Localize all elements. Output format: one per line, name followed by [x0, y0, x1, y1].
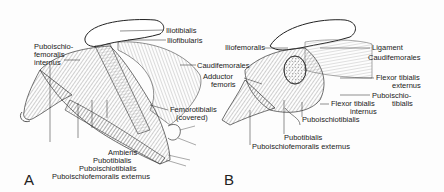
label-femorotibialis-line2: (covered) [176, 114, 208, 122]
panel-label-b: B [224, 171, 234, 188]
label-ligament: Ligament [372, 44, 403, 52]
label-caudifemorales-a: Caudifemorales [197, 62, 250, 70]
label-puboischiotibialis-top-line2: tibialis [392, 100, 413, 108]
panel-label-a: A [24, 171, 34, 188]
label-pubotibialis-b: Pubotibialis [284, 134, 322, 142]
label-caudifemorales-b: Caudifemorales [368, 54, 421, 62]
label-iliotibialis: Iliotibialis [166, 27, 196, 35]
label-flexor-tibialis-externus-line2: externus [392, 82, 421, 90]
label-iliofibularis: Iliofibularis [167, 37, 202, 45]
label-iliofemoralis: Iliofemoralis [225, 44, 265, 52]
label-puboischiotibialis-b: Puboischiotibialis [302, 116, 360, 124]
label-puboischiofemoralis-externus-a: Puboischiofemoralis externus [52, 173, 150, 181]
label-puboischiofemoralis-externus-b: Puboischiofemoralis externus [252, 143, 350, 151]
label-puboischiofemoralis-internus-line3: internus [34, 59, 61, 67]
anatomical-figure: Puboischio- femoralis internus Iliotibia… [0, 0, 444, 192]
label-adductor-femoris-line2: femoris [211, 81, 236, 89]
